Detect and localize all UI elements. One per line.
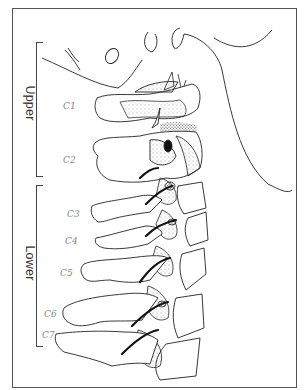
c1-c2-joint-shadow (160, 122, 198, 132)
body-c3 (177, 182, 206, 214)
vertebra-label-c2: C2 (63, 155, 76, 165)
vertebra-label-c5: C5 (60, 268, 73, 278)
spinous-c5 (81, 256, 168, 283)
vertebra-label-c1: C1 (63, 101, 76, 111)
spinous-processes (55, 195, 168, 366)
vertebra-label-c7: C7 (42, 330, 55, 340)
body-c4 (185, 212, 208, 246)
upper-region-label: Upper (23, 83, 37, 123)
body-c7 (156, 338, 200, 380)
vertebra-label-c6: C6 (44, 309, 57, 319)
spinous-c6 (63, 293, 158, 326)
body-c6 (173, 294, 204, 338)
upper-region-bracket (36, 42, 43, 177)
vertebra-c1 (95, 81, 200, 128)
vertebra-label-c4: C4 (65, 236, 78, 246)
vertebra-c2 (93, 131, 202, 182)
anterior-neck-outline (214, 204, 248, 320)
body-c5 (180, 248, 206, 290)
vertebra-label-c3: C3 (67, 209, 80, 219)
lower-region-label: Lower (23, 243, 37, 283)
lower-region-bracket (36, 185, 43, 347)
